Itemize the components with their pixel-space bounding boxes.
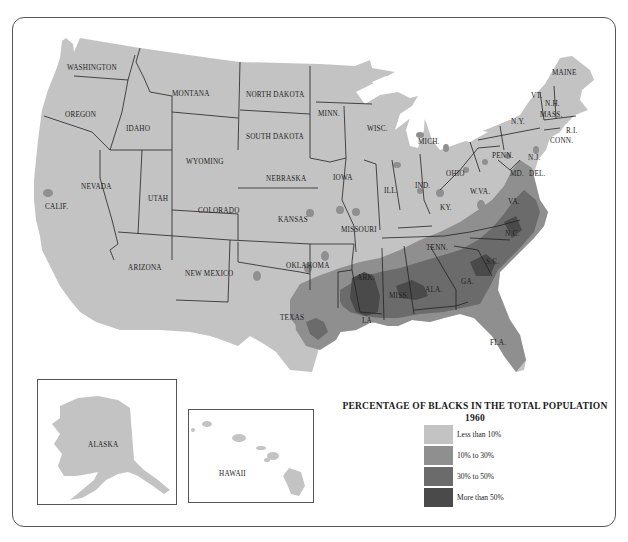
- label-washington: WASHINGTON: [67, 64, 117, 72]
- label-alaska: ALASKA: [88, 441, 119, 449]
- label-delaware: DEL.: [529, 170, 546, 178]
- label-maryland: MD.: [510, 170, 524, 178]
- label-new-jersey: N.J.: [528, 154, 540, 162]
- label-pennsylvania: PENN.: [492, 152, 514, 160]
- label-georgia: GA.: [461, 278, 474, 286]
- label-texas: TEXAS: [280, 314, 304, 322]
- legend-swatch: [424, 488, 453, 507]
- label-utah: UTAH: [148, 195, 168, 203]
- label-tennessee: TENN.: [426, 244, 448, 252]
- label-wisconsin: WISC.: [367, 125, 388, 133]
- label-kentucky: KY.: [440, 204, 452, 212]
- label-idaho: IDAHO: [126, 125, 150, 133]
- label-oregon: OREGON: [65, 111, 97, 119]
- label-maine: MAINE: [552, 69, 577, 77]
- alaska-map: ALASKA: [38, 380, 178, 506]
- hawaii-islands: [191, 421, 305, 496]
- hawaii-map: HAWAII: [189, 410, 315, 504]
- label-massachusetts: MASS.: [540, 111, 562, 119]
- label-wyoming: WYOMING: [186, 158, 224, 166]
- legend-item-less-than-10: Less than 10%: [424, 424, 504, 445]
- label-florida: FLA.: [490, 339, 506, 347]
- label-rhode-island: R.I.: [566, 127, 578, 135]
- label-oklahoma: OKLAHOMA: [286, 262, 330, 270]
- label-mississippi: MISS.: [389, 292, 409, 300]
- label-illinois: ILL.: [384, 187, 398, 195]
- legend-swatch: [424, 467, 453, 486]
- label-kansas: KANSAS: [278, 216, 308, 224]
- label-nebraska: NEBRASKA: [266, 175, 307, 183]
- legend-item-30-to-50: 30% to 50%: [424, 466, 504, 487]
- label-north-dakota: NORTH DAKOTA: [246, 91, 305, 99]
- label-connecticut: CONN.: [550, 137, 573, 145]
- label-iowa: IOWA: [333, 174, 353, 182]
- label-colorado: COLORADO: [198, 207, 240, 215]
- label-south-dakota: SOUTH DAKOTA: [246, 133, 305, 141]
- label-west-virginia: W.VA.: [470, 188, 490, 196]
- label-alabama: ALA.: [425, 286, 442, 294]
- label-new-york: N.Y.: [511, 118, 525, 126]
- label-south-carolina: S.C.: [486, 258, 499, 266]
- label-north-carolina: N.C.: [505, 230, 519, 238]
- legend-title: PERCENTAGE OF BLACKS IN THE TOTAL POPULA…: [330, 400, 620, 424]
- label-louisiana: LA.: [362, 317, 374, 325]
- label-ohio: OHIO: [446, 170, 465, 178]
- legend-label: Less than 10%: [457, 430, 501, 439]
- legend: Less than 10% 10% to 30% 30% to 50% More…: [424, 424, 504, 508]
- label-hawaii: HAWAII: [219, 470, 246, 478]
- legend-label: More than 50%: [457, 493, 504, 502]
- legend-label: 30% to 50%: [457, 472, 494, 481]
- hawaii-inset: HAWAII: [188, 409, 314, 503]
- lake-superior: [372, 76, 430, 92]
- map-year: 1960: [330, 412, 620, 424]
- label-nevada: NEVADA: [81, 183, 112, 191]
- label-missouri: MISSOURI: [341, 226, 377, 234]
- label-vermont: VT.: [531, 92, 542, 100]
- label-california: CALIF.: [45, 203, 68, 211]
- label-new-mexico: NEW MEXICO: [185, 270, 233, 278]
- alaska-inset: ALASKA: [37, 379, 177, 505]
- legend-item-more-than-50: More than 50%: [424, 487, 504, 508]
- label-new-hampshire: N.H.: [545, 100, 560, 108]
- label-indiana: IND.: [415, 182, 430, 190]
- legend-label: 10% to 30%: [457, 451, 494, 460]
- label-virginia: VA.: [508, 198, 520, 206]
- label-arizona: ARIZONA: [128, 264, 162, 272]
- legend-swatch: [424, 425, 453, 444]
- map-title: PERCENTAGE OF BLACKS IN THE TOTAL POPULA…: [330, 400, 620, 412]
- legend-swatch: [424, 446, 453, 465]
- label-montana: MONTANA: [172, 90, 210, 98]
- label-michigan: MICH.: [418, 138, 440, 146]
- legend-item-10-to-30: 10% to 30%: [424, 445, 504, 466]
- label-arkansas: ARK.: [357, 274, 375, 282]
- label-minnesota: MINN.: [318, 110, 340, 118]
